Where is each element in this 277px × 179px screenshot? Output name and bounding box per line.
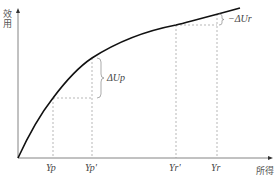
utility-chart [0, 0, 277, 179]
tick-yr-prime: Yr' [169, 162, 181, 173]
tick-yp: Yp [46, 162, 56, 173]
delta-up-label: ΔUp [107, 72, 125, 83]
x-axis-arrow-icon [268, 156, 273, 160]
guide-lines [53, 14, 217, 158]
y-axis-arrow-icon [16, 8, 20, 13]
tick-yr: Yr [211, 162, 220, 173]
delta-ur-label: −ΔUr [228, 13, 252, 24]
tick-yp-prime: Yp' [85, 162, 97, 173]
utility-curve [18, 8, 240, 158]
brace-delta-up [97, 58, 104, 98]
y-axis-label: 效用 [3, 9, 13, 29]
x-axis-label: 所得 [256, 164, 274, 177]
brace-delta-ur [219, 14, 224, 25]
